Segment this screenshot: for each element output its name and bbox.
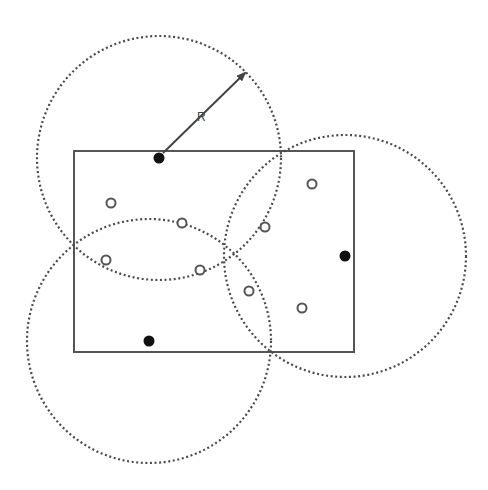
sensor-node	[154, 153, 165, 164]
target-point	[298, 304, 307, 313]
target-point	[102, 256, 111, 265]
sensor-node	[144, 336, 155, 347]
target-point	[308, 180, 317, 189]
sensor-nodes	[144, 153, 351, 347]
target-point	[261, 223, 270, 232]
coverage-diagram: R	[0, 0, 488, 490]
target-points	[102, 180, 317, 313]
target-point	[107, 199, 116, 208]
target-point	[178, 219, 187, 228]
diagram-canvas: R	[0, 0, 488, 490]
sensor-node	[340, 251, 351, 262]
target-point	[245, 287, 254, 296]
radius-label: R	[197, 110, 206, 124]
target-point	[196, 266, 205, 275]
sensing-range-circles	[27, 36, 466, 463]
